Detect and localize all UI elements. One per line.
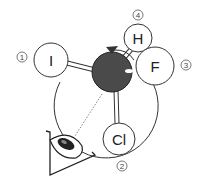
svg-text:3: 3 xyxy=(184,61,189,70)
atom-cl: Cl xyxy=(103,123,135,155)
atom-cl-label: Cl xyxy=(112,131,126,148)
priority-1: 1 xyxy=(17,52,27,62)
svg-text:2: 2 xyxy=(120,162,125,171)
atom-h: H xyxy=(124,24,152,52)
priority-2: 2 xyxy=(117,161,127,171)
bond-i xyxy=(67,63,95,70)
svg-text:4: 4 xyxy=(136,11,141,20)
bond-f xyxy=(125,69,133,73)
bond-cl xyxy=(116,90,117,124)
sight-line xyxy=(75,94,102,136)
atom-i: I xyxy=(34,43,68,77)
atom-f-label: F xyxy=(150,58,159,75)
atom-f: F xyxy=(136,47,174,85)
atom-h-label: H xyxy=(133,30,144,47)
priority-3: 3 xyxy=(181,60,191,70)
molecule-diagram: I H F Cl 1 2 3 xyxy=(0,0,206,188)
eye-icon xyxy=(46,131,95,175)
svg-text:1: 1 xyxy=(20,53,25,62)
atom-i-label: I xyxy=(49,52,53,69)
priority-4: 4 xyxy=(133,10,143,20)
